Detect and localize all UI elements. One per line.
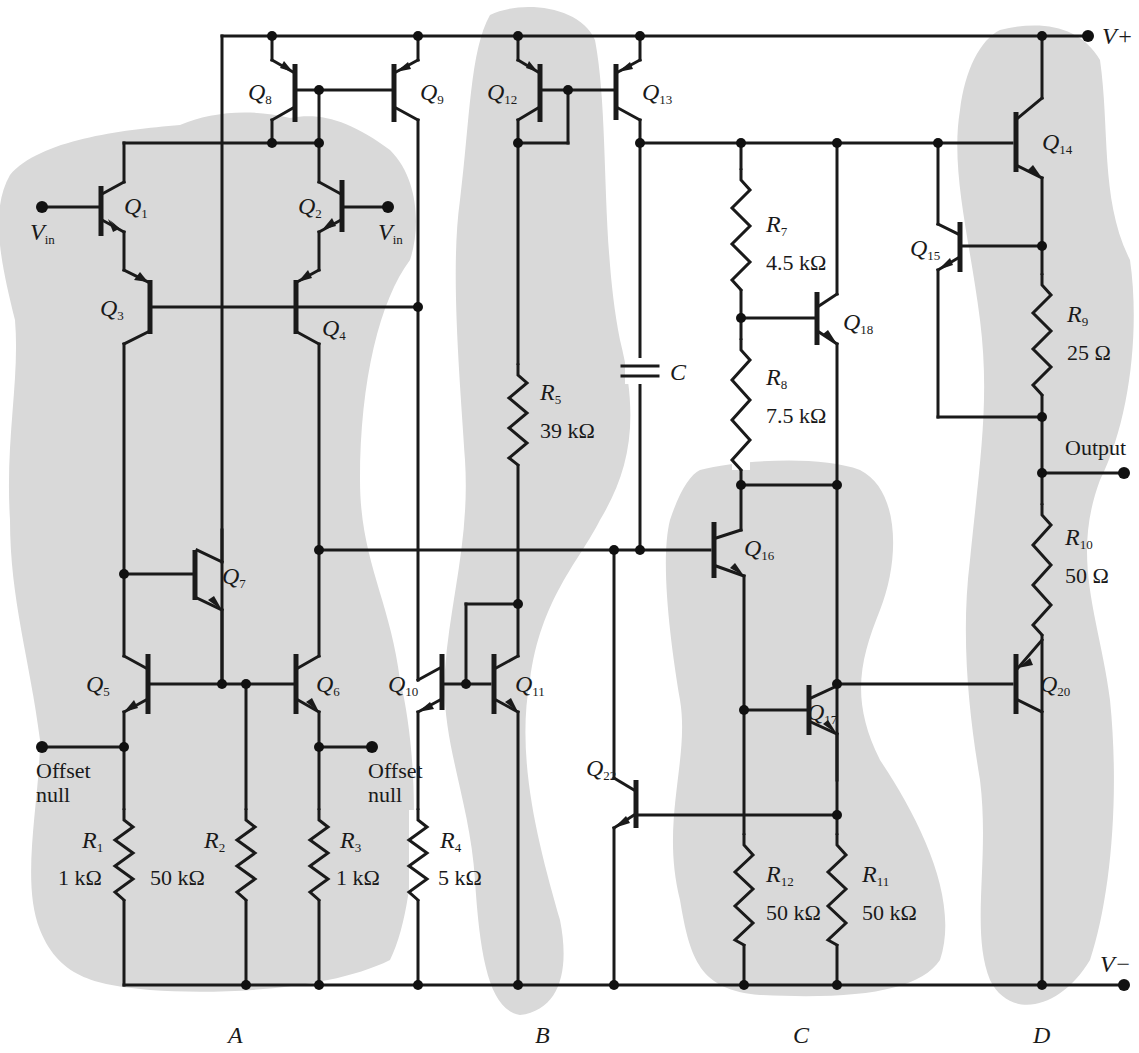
label-capacitor: C (670, 359, 687, 385)
label-vplus: V+ (1102, 23, 1133, 49)
value-r2: 50 kΩ (150, 865, 205, 890)
region-label-a: A (226, 1022, 243, 1048)
region-label-b: B (535, 1022, 550, 1048)
label-q15: Q15 (910, 235, 940, 263)
region-label-d: D (1032, 1022, 1050, 1048)
value-r3: 1 kΩ (336, 865, 380, 890)
label-r8: R8 (765, 364, 787, 392)
value-r12: 50 kΩ (766, 900, 821, 925)
label-q18: Q18 (843, 309, 873, 337)
op-amp-schematic: V+ V− Output Vin Vin Offsetnull Offsetnu… (0, 0, 1139, 1053)
label-output: Output (1065, 435, 1126, 460)
label-r7: R7 (765, 211, 788, 239)
terminal-output[interactable] (1118, 467, 1130, 479)
value-r10: 50 Ω (1065, 563, 1109, 588)
terminal-offset-null-left[interactable] (36, 741, 48, 753)
terminal-vplus[interactable] (1082, 30, 1094, 42)
value-r7: 4.5 kΩ (766, 250, 826, 275)
label-q13: Q13 (642, 79, 672, 107)
label-q10: Q10 (388, 671, 418, 699)
value-r1: 1 kΩ (58, 865, 102, 890)
terminal-vin-right[interactable] (382, 201, 394, 213)
region-b-shading (444, 7, 630, 1015)
region-label-c: C (793, 1022, 810, 1048)
label-q22: Q22 (586, 755, 616, 783)
label-q8: Q8 (248, 79, 272, 107)
value-r8: 7.5 kΩ (766, 403, 826, 428)
label-q9: Q9 (420, 79, 444, 107)
label-vminus: V− (1100, 951, 1131, 977)
value-r5: 39 kΩ (540, 418, 595, 443)
value-r9: 25 Ω (1067, 340, 1111, 365)
label-r10: R10 (1064, 524, 1093, 552)
terminal-vin-left[interactable] (36, 201, 48, 213)
label-r4: R4 (439, 827, 462, 855)
terminal-vminus[interactable] (1118, 979, 1130, 991)
value-r11: 50 kΩ (862, 900, 917, 925)
region-a-shading (0, 112, 416, 991)
shaded-regions (0, 7, 1134, 1015)
label-offset-null-right: Offsetnull (368, 758, 423, 807)
label-q11: Q11 (515, 671, 545, 699)
terminal-offset-null-right[interactable] (366, 741, 378, 753)
value-r4: 5 kΩ (438, 865, 482, 890)
